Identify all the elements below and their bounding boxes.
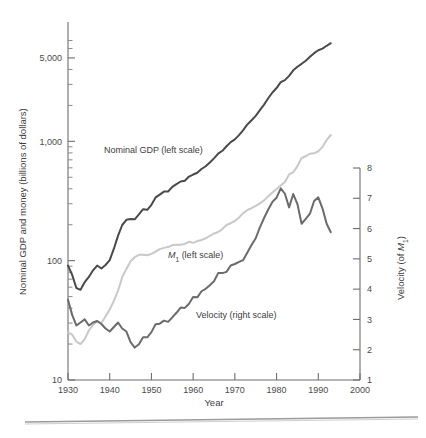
right-tick-label: 1 [367, 375, 372, 385]
left-tick-label: 100 [47, 256, 62, 266]
series-line-velocity-right-scale [68, 188, 331, 347]
left-axis-ticks [68, 40, 75, 380]
plot-frame [68, 22, 360, 380]
nominal-gdp-annotation: Nominal GDP (left scale) [104, 145, 203, 155]
series-lines [68, 43, 331, 347]
left-axis-tick-labels: 101001,0005,000 [39, 53, 62, 385]
velocity-annotation: Velocity (right scale) [196, 310, 277, 320]
right-axis-tick-labels: 12345678 [367, 163, 372, 385]
right-tick-label: 8 [367, 163, 372, 173]
left-tick-label: 1,000 [39, 137, 62, 147]
x-tick-label: 1960 [183, 385, 203, 395]
left-axis-title: Nominal GDP and money (billions of dolla… [17, 108, 28, 295]
right-axis-ticks [353, 168, 360, 380]
right-tick-label: 3 [367, 315, 372, 325]
figure-container: 101001,0005,000 193019401950196019701980… [0, 0, 426, 438]
x-tick-label: 1990 [308, 385, 328, 395]
m1-annotation: M1 (left scale) [168, 250, 223, 263]
right-tick-label: 2 [367, 345, 372, 355]
x-tick-label: 1940 [100, 385, 120, 395]
nominal-gdp-money-velocity-chart: 101001,0005,000 193019401950196019701980… [0, 0, 426, 438]
right-axis-title: Velocity (of M1) [395, 236, 409, 300]
x-axis-title: Year [204, 397, 223, 408]
right-tick-label: 4 [367, 284, 372, 294]
x-tick-label: 1950 [141, 385, 161, 395]
right-tick-label: 6 [367, 224, 372, 234]
x-axis-tick-labels: 19301940195019601970198019902000 [58, 385, 370, 395]
x-tick-label: 1930 [58, 385, 78, 395]
left-tick-label: 5,000 [39, 53, 62, 63]
x-tick-label: 2000 [350, 385, 370, 395]
right-tick-label: 7 [367, 193, 372, 203]
x-tick-label: 1970 [225, 385, 245, 395]
x-axis-ticks [68, 373, 360, 380]
footer-divider [25, 417, 418, 424]
right-tick-label: 5 [367, 254, 372, 264]
x-tick-label: 1980 [267, 385, 287, 395]
left-tick-label: 10 [52, 375, 62, 385]
